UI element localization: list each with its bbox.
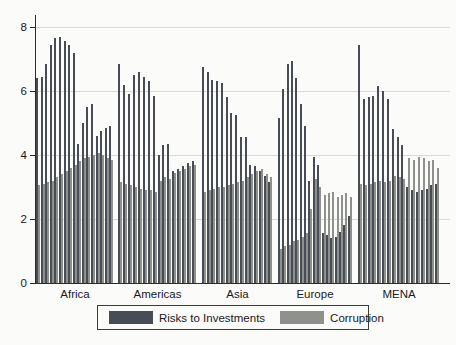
bar-corruption [399, 177, 401, 283]
y-tick-6 [30, 91, 35, 92]
bar-corruption [218, 187, 220, 283]
legend: Risks to Investments Corruption [97, 305, 369, 330]
bar-corruption [261, 169, 263, 283]
bar-corruption [370, 184, 372, 283]
bar-corruption [130, 185, 132, 283]
bar-corruption [350, 197, 352, 283]
gridline-y8 [36, 27, 450, 28]
x-axis-line [35, 283, 450, 284]
y-tick-4 [30, 155, 35, 156]
legend-label-corruption: Corruption [330, 312, 384, 324]
bar-corruption [232, 184, 234, 283]
bar-corruption [437, 168, 439, 283]
bar-corruption [228, 185, 230, 283]
bar-corruption [169, 179, 171, 283]
y-tick-label-6: 6 [5, 86, 27, 97]
bar-corruption [242, 181, 244, 283]
region-label-europe: Europe [296, 288, 333, 300]
bar-corruption [145, 190, 147, 283]
gridline-y6 [36, 91, 450, 92]
region-label-mena: MENA [382, 288, 415, 300]
y-tick-0 [30, 283, 35, 284]
bar-corruption [150, 190, 152, 283]
y-tick-label-4: 4 [5, 150, 27, 161]
bar-corruption [389, 181, 391, 283]
legend-label-risks: Risks to Investments [159, 312, 265, 324]
bar-corruption [384, 182, 386, 283]
bar-corruption [174, 173, 176, 283]
bar-corruption [120, 182, 122, 283]
bar-corruption [394, 176, 396, 283]
bar-corruption [140, 189, 142, 283]
bar-corruption [179, 171, 181, 283]
bar-corruption [125, 184, 127, 283]
region-label-africa: Africa [60, 288, 89, 300]
bar-corruption [365, 185, 367, 283]
y-tick-label-0: 0 [5, 278, 27, 289]
region-label-asia: Asia [226, 288, 248, 300]
bar-corruption [204, 192, 206, 283]
bar-corruption [164, 177, 166, 283]
y-tick-8 [30, 27, 35, 28]
bar-corruption [189, 166, 191, 283]
bar-corruption [247, 177, 249, 283]
bar-corruption [194, 165, 196, 283]
bar-corruption [428, 161, 430, 283]
bar-corruption [379, 181, 381, 283]
bar-corruption [256, 171, 258, 283]
legend-swatch-risks [109, 311, 153, 324]
bar-corruption [111, 160, 113, 283]
bar-corruption [223, 187, 225, 283]
bar-corruption [155, 192, 157, 283]
bar-corruption [135, 187, 137, 283]
y-tick-label-8: 8 [5, 22, 27, 33]
y-tick-2 [30, 219, 35, 220]
bar-corruption [403, 179, 405, 283]
bar-corruption [184, 169, 186, 283]
bar-corruption [209, 190, 211, 283]
bar-corruption [160, 181, 162, 283]
bar-corruption [266, 174, 268, 283]
bar-corruption [270, 177, 272, 283]
bar-corruption [251, 174, 253, 283]
bar-corruption [213, 189, 215, 283]
bar-corruption [418, 157, 420, 283]
bar-corruption [408, 158, 410, 283]
bar-corruption [413, 160, 415, 283]
plot-area: 02468AfricaAmericasAsiaEuropeMENA [0, 0, 456, 345]
bar-corruption [360, 184, 362, 283]
chart-canvas: 02468AfricaAmericasAsiaEuropeMENA Risks … [0, 0, 456, 345]
bar-corruption [423, 158, 425, 283]
bar-corruption [374, 182, 376, 283]
legend-swatch-corruption [280, 311, 324, 324]
bar-corruption [432, 160, 434, 283]
bar-corruption [237, 182, 239, 283]
y-tick-label-2: 2 [5, 214, 27, 225]
region-label-americas: Americas [134, 288, 182, 300]
